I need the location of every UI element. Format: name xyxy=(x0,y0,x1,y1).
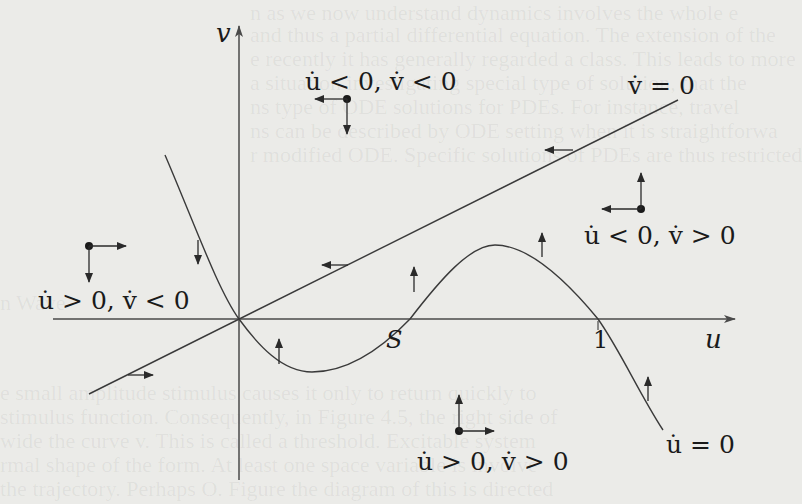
unit-point-label: 1 xyxy=(593,328,608,352)
u-axis-label: u xyxy=(705,326,722,352)
v-nullcline-label: v̇ = 0 xyxy=(628,73,695,98)
v-axis-label: v xyxy=(216,20,231,46)
flow-arrows xyxy=(128,150,648,401)
direction-cross-top xyxy=(315,95,351,134)
saddle-point-label: S xyxy=(386,328,402,352)
direction-cross-bottom xyxy=(455,395,494,435)
region-label-right: u̇ < 0, v̇ > 0 xyxy=(584,223,736,248)
region-label-top: u̇ < 0, v̇ < 0 xyxy=(305,69,457,94)
u-nullcline-label: u̇ = 0 xyxy=(666,432,735,457)
direction-cross-right xyxy=(602,173,645,213)
region-label-left: u̇ > 0, v̇ < 0 xyxy=(38,288,190,313)
region-label-bottom: u̇ > 0, v̇ > 0 xyxy=(417,449,569,474)
direction-cross-left xyxy=(85,242,126,282)
